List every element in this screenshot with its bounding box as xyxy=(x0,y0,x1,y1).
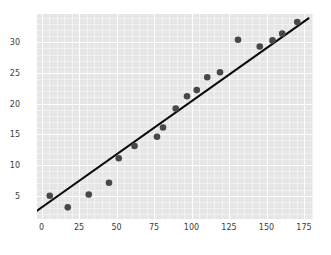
scatter-point xyxy=(154,133,161,140)
scatter-point xyxy=(204,74,211,81)
scatter-point xyxy=(279,30,286,37)
scatter-point xyxy=(64,204,71,211)
y-tick-label: 25 xyxy=(10,68,20,77)
x-tick-label: 125 xyxy=(221,223,236,232)
scatter-point xyxy=(106,179,113,186)
scatter-point xyxy=(256,43,263,50)
scatter-point xyxy=(172,105,179,112)
scatter-point xyxy=(184,93,191,100)
y-tick-label: 30 xyxy=(10,38,20,47)
y-tick-label: 20 xyxy=(10,99,20,108)
scatter-point xyxy=(46,192,53,199)
scatter-point xyxy=(193,87,200,94)
y-tick-label: 5 xyxy=(15,191,20,200)
scatter-plot-figure: 0255075100125150175 51015202530 xyxy=(0,0,331,255)
scatter-point xyxy=(217,69,224,76)
x-tick-label: 50 xyxy=(111,223,121,232)
scatter-point xyxy=(85,191,92,198)
trend-line xyxy=(37,18,309,210)
x-tick-label: 75 xyxy=(149,223,159,232)
x-tick-label: 0 xyxy=(39,223,44,232)
y-tick-label: 15 xyxy=(10,130,20,139)
x-tick-label: 175 xyxy=(296,223,311,232)
scatter-point xyxy=(131,143,138,150)
x-tick-label: 25 xyxy=(74,223,84,232)
scatter-point xyxy=(160,124,167,131)
scatter-point xyxy=(115,155,122,162)
plot-area xyxy=(37,14,313,219)
x-tick-label: 100 xyxy=(184,223,199,232)
scatter-point xyxy=(294,19,301,26)
data-layer xyxy=(37,14,313,219)
y-tick-label: 10 xyxy=(10,160,20,169)
scatter-point xyxy=(235,36,242,43)
scatter-point xyxy=(269,37,276,44)
x-tick-label: 150 xyxy=(259,223,274,232)
